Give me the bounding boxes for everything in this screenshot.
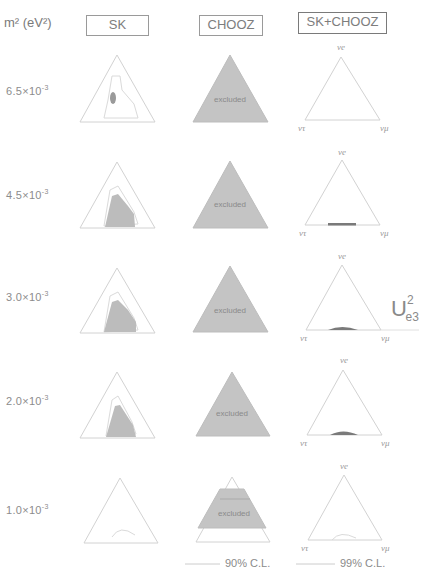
sk-triangle-row-3	[80, 268, 155, 333]
excluded-label-row-4: excluded	[216, 409, 248, 418]
sk-triangle-row-4	[80, 372, 155, 438]
nu-tau-label-row-5: ντ	[301, 543, 309, 553]
combined-triangle-row-5	[308, 475, 382, 540]
nu-mu-label-row-3: νμ	[381, 333, 390, 343]
sk-triangle-row-2	[80, 162, 155, 228]
nu-mu-label-row-5: νμ	[381, 543, 390, 553]
chooz-triangle-row-1	[193, 55, 268, 122]
legend-90-cl: 90% C.L.	[225, 557, 270, 569]
chooz-triangle-row-3	[193, 266, 268, 332]
nu-mu-label-row-4: νμ	[381, 438, 390, 448]
combined-triangle-row-1	[305, 57, 380, 120]
excluded-label-row-1: excluded	[214, 95, 246, 104]
legend-99-cl: 99% C.L.	[340, 557, 385, 569]
nu-e-label-row-5: νe	[340, 461, 348, 471]
sk-triangle-row-5	[84, 478, 158, 543]
nu-mu-label-row-2: νμ	[380, 228, 389, 238]
triangle-grid: excluded excluded excluded excluded excl…	[0, 0, 431, 573]
nu-e-label-row-2: νe	[338, 147, 346, 157]
excluded-label-row-2: excluded	[214, 200, 246, 209]
chooz-triangle-row-4	[196, 372, 270, 436]
nu-e-label-row-1: νe	[337, 42, 345, 52]
nu-e-label-row-3: νe	[338, 251, 346, 261]
combined-triangle-row-2	[305, 160, 380, 226]
nu-mu-label-row-1: νμ	[380, 123, 389, 133]
nu-tau-label-row-2: ντ	[299, 228, 307, 238]
nu-e-label-row-4: νe	[340, 355, 348, 365]
chooz-triangle-row-2	[193, 161, 268, 228]
nu-tau-label-row-3: ντ	[300, 333, 308, 343]
excluded-label-row-3: excluded	[214, 306, 246, 315]
excluded-label-row-5: excluded	[218, 509, 250, 518]
nu-tau-label-row-1: ντ	[298, 123, 306, 133]
nu-tau-label-row-4: ντ	[300, 438, 308, 448]
ue3-axis-label: U2e3	[391, 296, 419, 324]
sk-triangle-row-1	[80, 55, 155, 122]
combined-triangle-row-4	[307, 370, 382, 435]
